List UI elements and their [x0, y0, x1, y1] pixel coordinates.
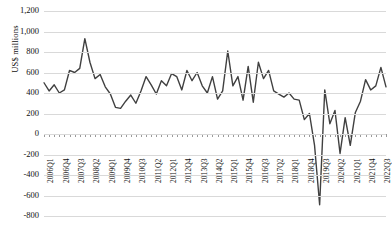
gridline — [44, 93, 386, 94]
x-tick-label: 2009Q4 — [124, 159, 132, 183]
y-tick-label: 1,200 — [20, 6, 39, 15]
x-tick-label: 2008Q2 — [93, 159, 101, 183]
y-tick-label: 400 — [26, 88, 39, 97]
x-tick-label: 2009Q1 — [109, 159, 117, 183]
x-tick-label: 2012Q1 — [170, 159, 178, 183]
x-tick-label: 2015Q1 — [231, 159, 239, 183]
x-tick-label: 2010Q3 — [139, 159, 147, 183]
y-tick-label: -800 — [23, 211, 39, 220]
x-tick-label: 2006Q4 — [63, 159, 71, 183]
x-tick-label: 2020Q2 — [338, 159, 346, 183]
x-tick-label: 2014Q2 — [216, 159, 224, 183]
x-tick-label: 2019Q3 — [323, 159, 331, 183]
y-axis-tick-labels: 1,2001,0008006004002000-200-400-600-800 — [0, 0, 42, 226]
x-tick-label: 2012Q4 — [185, 159, 193, 183]
x-tick-label: 2011Q2 — [155, 159, 163, 183]
gridline — [44, 32, 386, 33]
x-tick-label: 2018Q4 — [308, 159, 316, 183]
x-tick-label: 2016Q3 — [262, 159, 270, 183]
gridline — [44, 114, 386, 115]
zero-gridline — [44, 134, 386, 135]
gridline — [44, 52, 386, 53]
y-tick-label: 1,000 — [20, 27, 39, 36]
y-tick-label: 0 — [35, 129, 39, 138]
x-tick-label: 2018Q1 — [292, 159, 300, 183]
y-tick-label: 800 — [26, 47, 39, 56]
gridline — [44, 175, 386, 176]
x-tick-label: 2006Q1 — [47, 159, 55, 183]
gridline — [44, 155, 386, 156]
gridline — [44, 196, 386, 197]
x-tick-label: 2015Q4 — [246, 159, 254, 183]
x-tick-label: 2021Q1 — [354, 159, 362, 183]
gridline — [44, 216, 386, 217]
x-axis-tick-labels: 2006Q12006Q42007Q32008Q22009Q12009Q42010… — [44, 139, 386, 199]
gridline — [44, 73, 386, 74]
x-tick-label: 2013Q3 — [201, 159, 209, 183]
x-tick-label: 2007Q3 — [78, 159, 86, 183]
x-tick — [386, 134, 387, 137]
y-tick-label: -400 — [23, 170, 39, 179]
y-tick-label: -200 — [23, 150, 39, 159]
x-tick-label: 2017Q2 — [277, 159, 285, 183]
y-tick-label: 600 — [26, 68, 39, 77]
x-tick-label: 2022Q3 — [384, 159, 392, 183]
y-tick-label: -600 — [23, 191, 39, 200]
y-tick-label: 200 — [26, 109, 39, 118]
gridline — [44, 11, 386, 12]
x-tick-label: 2021Q4 — [369, 159, 377, 183]
